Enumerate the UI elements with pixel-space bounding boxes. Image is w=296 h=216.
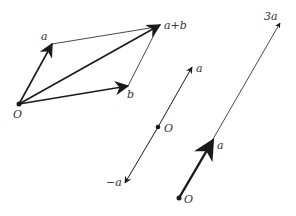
origin-point <box>156 125 161 130</box>
label-a-plus-b: a+b <box>164 19 187 32</box>
vector-a <box>158 67 192 127</box>
origin-point <box>17 102 22 107</box>
vector-minus-a <box>125 127 158 183</box>
label-3a: 3a <box>264 10 278 23</box>
label-origin: O <box>13 108 22 121</box>
negation-figure: O a −a <box>106 62 203 189</box>
label-a: a <box>217 139 224 152</box>
label-a: a <box>41 30 48 43</box>
scaling-figure: O a 3a <box>177 10 281 206</box>
vector-diagram: O a b a+b O a −a O a 3a <box>0 0 296 216</box>
label-minus-a: −a <box>106 176 122 189</box>
label-origin: O <box>184 193 193 206</box>
side-a-to-a-plus-b <box>52 28 150 44</box>
label-b: b <box>127 88 134 101</box>
label-origin: O <box>164 122 173 135</box>
side-b-to-a-plus-b <box>128 27 158 86</box>
origin-point <box>177 196 182 201</box>
parallelogram-figure: O a b a+b <box>13 19 187 121</box>
vector-a <box>179 140 213 198</box>
label-a: a <box>196 62 203 75</box>
